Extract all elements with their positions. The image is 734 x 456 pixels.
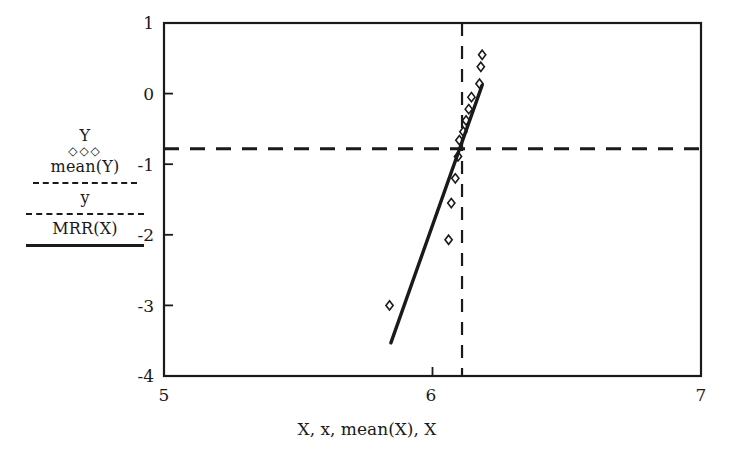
y-tick-label: 1 xyxy=(116,13,154,33)
scatter-points xyxy=(386,50,486,310)
y-tick-label: -4 xyxy=(110,366,154,386)
y-tick-label: -3 xyxy=(110,296,154,316)
y-tick-label: -1 xyxy=(110,155,154,175)
x-tick-label: 7 xyxy=(689,385,713,405)
y-tick-label: -2 xyxy=(110,225,154,245)
legend-sample-mean-y xyxy=(18,176,152,189)
legend-sample-small-y xyxy=(18,207,152,220)
x-tick-label: 5 xyxy=(152,385,176,405)
legend-label-y: Y xyxy=(18,128,152,144)
dashed-line-icon xyxy=(26,213,144,215)
legend-label-small-y: y xyxy=(18,190,152,206)
axes-frame xyxy=(164,23,701,376)
x-axis-title: X, x, mean(X), X xyxy=(0,419,734,439)
y-tick-label: 0 xyxy=(116,84,154,104)
chart-figure: Y ◇◇◇ mean(Y) y MRR(X) 1 0 -1 -2 -3 -4 5… xyxy=(0,0,734,456)
dashed-line-icon xyxy=(33,182,137,184)
mrr-regression-line xyxy=(391,85,482,343)
x-tick-label: 6 xyxy=(419,385,443,405)
y-tick-marks xyxy=(164,94,173,306)
